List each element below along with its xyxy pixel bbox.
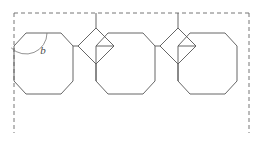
tessellation-figure: b [0,0,264,143]
angle-label-b: b [40,44,46,56]
figure-background [0,0,264,143]
tessellation-canvas: b [0,0,264,143]
